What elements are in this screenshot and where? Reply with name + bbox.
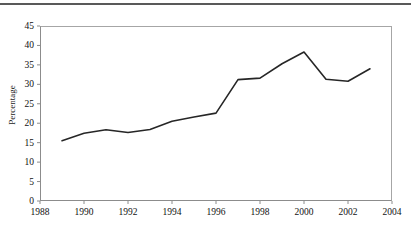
x-tick-label: 1992 xyxy=(108,207,148,217)
y-tick-label: 45 xyxy=(8,21,34,31)
x-tick-label: 1996 xyxy=(196,207,236,217)
x-tick-label: 1988 xyxy=(20,207,60,217)
x-tick-label: 1994 xyxy=(152,207,192,217)
y-tick-label: 10 xyxy=(8,157,34,167)
x-axis-tick-marks xyxy=(40,201,392,204)
y-tick-label: 35 xyxy=(8,60,34,70)
y-tick-label: 40 xyxy=(8,40,34,50)
x-tick-label: 1998 xyxy=(240,207,280,217)
chart-figure: Percentage 051015202530354045 1988199019… xyxy=(0,0,411,239)
x-tick-label: 2000 xyxy=(284,207,324,217)
x-tick-label: 2002 xyxy=(328,207,368,217)
y-tick-label: 20 xyxy=(8,118,34,128)
x-tick-label: 1990 xyxy=(64,207,104,217)
y-tick-label: 15 xyxy=(8,138,34,148)
y-tick-label: 30 xyxy=(8,79,34,89)
x-tick-label: 2004 xyxy=(372,207,411,217)
top-divider-rule xyxy=(0,3,411,5)
y-tick-label: 25 xyxy=(8,99,34,109)
y-tick-label: 5 xyxy=(8,177,34,187)
plot-area xyxy=(40,26,392,201)
y-tick-label: 0 xyxy=(8,196,34,206)
